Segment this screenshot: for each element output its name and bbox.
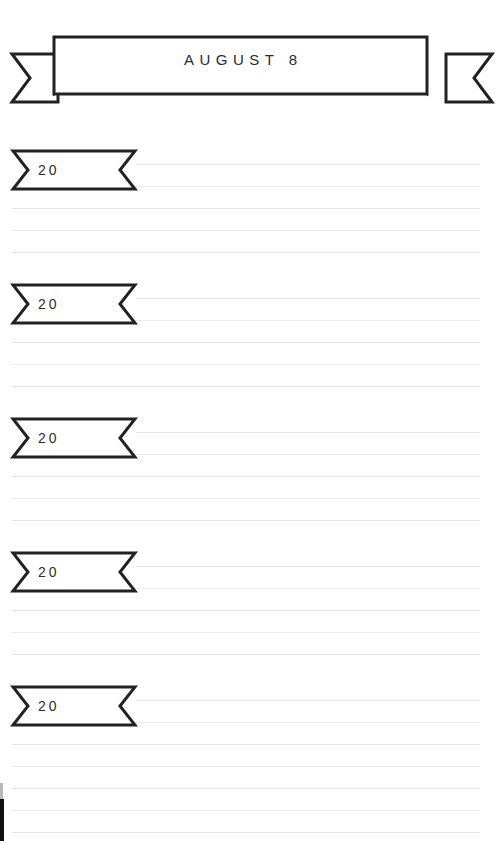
writing-line xyxy=(12,744,480,745)
year-flag-label: 20 xyxy=(10,282,138,326)
scan-edge-artifact xyxy=(0,799,4,841)
writing-line xyxy=(12,766,480,767)
writing-line xyxy=(12,610,480,611)
writing-line xyxy=(12,476,480,477)
year-flag-label: 20 xyxy=(10,684,138,728)
writing-line xyxy=(12,498,480,499)
writing-line xyxy=(12,208,480,209)
page-title: AUGUST 8 xyxy=(54,37,427,81)
year-flag[interactable]: 20 xyxy=(10,416,138,460)
writing-line xyxy=(136,566,480,567)
writing-line xyxy=(136,700,480,701)
writing-line xyxy=(12,252,480,253)
ribbon-right-tail xyxy=(446,54,492,102)
year-flag[interactable]: 20 xyxy=(10,550,138,594)
writing-line xyxy=(12,520,480,521)
scan-edge-soft-artifact xyxy=(0,783,3,799)
ribbon-banner: AUGUST 8 xyxy=(0,22,504,104)
writing-line xyxy=(12,832,480,833)
writing-line xyxy=(12,654,480,655)
writing-line xyxy=(12,230,480,231)
writing-line xyxy=(136,432,480,433)
writing-line xyxy=(12,810,480,811)
writing-line xyxy=(136,164,480,165)
year-flag-label: 20 xyxy=(10,550,138,594)
writing-line xyxy=(12,386,480,387)
writing-line xyxy=(12,364,480,365)
year-flag[interactable]: 20 xyxy=(10,684,138,728)
writing-line xyxy=(12,632,480,633)
year-flag-label: 20 xyxy=(10,148,138,192)
writing-line xyxy=(12,342,480,343)
year-flag-label: 20 xyxy=(10,416,138,460)
writing-line xyxy=(136,298,480,299)
year-flag[interactable]: 20 xyxy=(10,282,138,326)
writing-line xyxy=(12,788,480,789)
year-flag[interactable]: 20 xyxy=(10,148,138,192)
ribbon-left-tail xyxy=(12,54,58,102)
journal-page: AUGUST 8 2020202020 xyxy=(0,0,504,859)
